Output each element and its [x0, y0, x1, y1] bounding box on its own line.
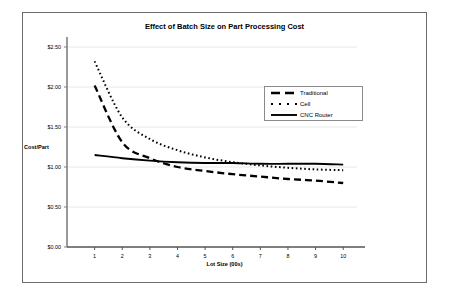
legend-label: CNC Router: [300, 112, 333, 118]
y-axis-label: Cost/Part: [24, 144, 49, 150]
legend-item: Traditional: [265, 87, 362, 98]
y-tick-label: $1.50: [48, 124, 62, 130]
x-axis-label: Lot Size (00s): [23, 261, 426, 267]
x-tick-label: 3: [148, 253, 151, 259]
x-tick-label: 5: [204, 253, 207, 259]
legend-swatch-dashed: [269, 88, 299, 97]
x-axis-ticks: 12345678910: [93, 247, 346, 259]
axes: [67, 37, 365, 247]
legend-item: CNC Router: [265, 109, 362, 120]
y-tick-label: $0.00: [48, 244, 62, 250]
x-tick-label: 9: [314, 253, 317, 259]
x-tick-label: 7: [259, 253, 262, 259]
series-line-cnc-router: [95, 155, 344, 165]
chart-frame: $0.00$0.50$1.00$1.50$2.00$2.50 123456789…: [22, 12, 427, 283]
x-tick-label: 2: [121, 253, 124, 259]
y-tick-label: $2.50: [48, 44, 62, 50]
x-tick-label: 1: [93, 253, 96, 259]
legend-item: Cell: [265, 98, 362, 109]
y-tick-label: $1.00: [48, 164, 62, 170]
legend-label: Traditional: [300, 90, 328, 96]
x-tick-label: 10: [340, 253, 346, 259]
legend-swatch-dotted: [269, 99, 299, 108]
chart-canvas: $0.00$0.50$1.00$1.50$2.00$2.50 123456789…: [23, 13, 426, 282]
data-series: [95, 61, 344, 183]
y-tick-label: $2.00: [48, 84, 62, 90]
y-tick-label: $0.50: [48, 204, 62, 210]
gridlines: [67, 47, 357, 207]
y-axis-ticks: $0.00$0.50$1.00$1.50$2.00$2.50: [48, 44, 68, 250]
legend-label: Cell: [300, 101, 310, 107]
x-tick-label: 4: [176, 253, 179, 259]
legend: TraditionalCellCNC Router: [264, 86, 363, 121]
x-tick-label: 8: [286, 253, 289, 259]
x-tick-label: 6: [231, 253, 234, 259]
legend-swatch-solid: [269, 110, 299, 119]
chart-title: Effect of Batch Size on Part Processing …: [23, 13, 426, 31]
